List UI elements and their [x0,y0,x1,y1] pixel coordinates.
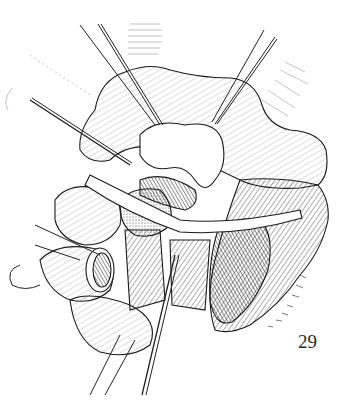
figure-number: 29 [298,331,317,353]
illustration-canvas: 29 [0,0,355,415]
tissue-mass [40,66,328,354]
